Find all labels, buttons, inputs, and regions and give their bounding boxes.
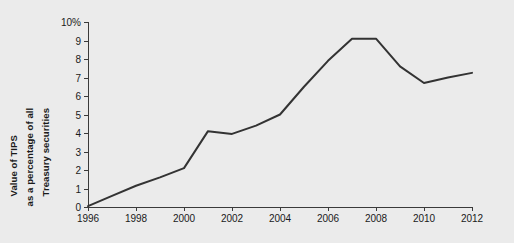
y-tick-label-7: 7 bbox=[75, 72, 81, 83]
x-tick-label-2006: 2006 bbox=[317, 213, 339, 224]
x-tick-1996 bbox=[88, 207, 89, 211]
x-tick-label-2012: 2012 bbox=[461, 213, 483, 224]
x-tick-2004 bbox=[280, 207, 281, 211]
y-tick-label-10: 10% bbox=[61, 17, 81, 28]
y-axis-title-line-2: as a percentage of all bbox=[25, 107, 35, 206]
y-tick-label-6: 6 bbox=[75, 91, 81, 102]
x-tick-2010 bbox=[424, 207, 425, 211]
chart-figure: Value of TIPS as a percentage of all Tre… bbox=[0, 0, 514, 243]
y-tick-label-2: 2 bbox=[75, 165, 81, 176]
x-tick-label-2008: 2008 bbox=[365, 213, 387, 224]
y-axis-title-line-1: Value of TIPS bbox=[9, 135, 19, 196]
x-tick-2012 bbox=[472, 207, 473, 211]
x-tick-1998 bbox=[136, 207, 137, 211]
x-tick-2006 bbox=[328, 207, 329, 211]
x-tick-label-2000: 2000 bbox=[173, 213, 195, 224]
series-line bbox=[88, 22, 472, 207]
y-axis-title: Value of TIPS as a percentage of all Tre… bbox=[14, 18, 68, 208]
y-tick-label-4: 4 bbox=[75, 128, 81, 139]
x-tick-2000 bbox=[184, 207, 185, 211]
y-tick-label-0: 0 bbox=[75, 202, 81, 213]
x-tick-2008 bbox=[376, 207, 377, 211]
y-tick-label-1: 1 bbox=[75, 183, 81, 194]
plot-area: 012345678910% 19961998200020022004200620… bbox=[88, 22, 472, 207]
x-tick-label-2004: 2004 bbox=[269, 213, 291, 224]
x-tick-label-2002: 2002 bbox=[221, 213, 243, 224]
x-tick-2002 bbox=[232, 207, 233, 211]
x-tick-label-1996: 1996 bbox=[77, 213, 99, 224]
y-tick-label-3: 3 bbox=[75, 146, 81, 157]
x-tick-label-1998: 1998 bbox=[125, 213, 147, 224]
y-tick-label-5: 5 bbox=[75, 109, 81, 120]
x-tick-label-2010: 2010 bbox=[413, 213, 435, 224]
y-tick-label-8: 8 bbox=[75, 54, 81, 65]
y-axis-title-line-3: Treasury securities bbox=[41, 107, 51, 196]
y-tick-label-9: 9 bbox=[75, 35, 81, 46]
